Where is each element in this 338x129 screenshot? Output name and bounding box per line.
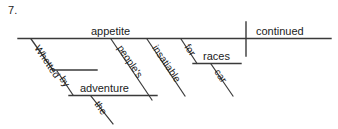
sentence-diagram-page: 7. appetite continued people's insatiabl… — [0, 0, 338, 129]
word-subject: appetite — [91, 25, 130, 37]
sentence-diagram-canvas: appetite continued people's insatiable f… — [0, 0, 338, 129]
word-participle-preposition: by — [57, 74, 72, 89]
word-verb: continued — [256, 25, 304, 37]
word-participle-prep-object: adventure — [80, 82, 129, 94]
word-possessive: people's — [115, 43, 145, 80]
word-adjective: insatiable — [150, 43, 183, 85]
word-prep-object: races — [203, 50, 230, 62]
word-participle-first-part: Whetted — [32, 43, 62, 80]
